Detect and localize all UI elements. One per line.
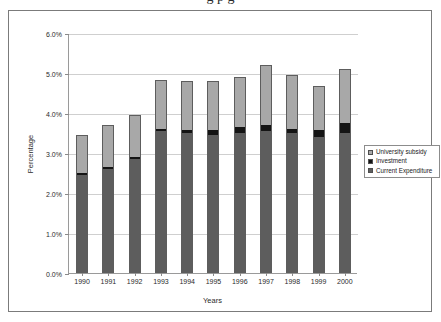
bar-group: 1997	[253, 34, 279, 273]
bar-segment	[77, 136, 87, 173]
stacked-bar	[102, 125, 114, 273]
x-axis-title: Years	[68, 296, 357, 305]
bar-segment	[287, 76, 297, 129]
bar-group: 1996	[227, 34, 253, 273]
bar-segment	[156, 131, 166, 272]
x-axis-tick	[82, 273, 83, 276]
x-axis-tick	[213, 273, 214, 276]
x-axis-label: 1994	[179, 278, 195, 285]
bar-segment	[156, 81, 166, 129]
x-axis-label: 1992	[127, 278, 143, 285]
stacked-bar	[155, 80, 167, 273]
stacked-bar	[207, 81, 219, 273]
legend-swatch-icon	[368, 150, 373, 155]
y-axis-label: 0.0%	[46, 271, 62, 278]
stacked-bar	[286, 75, 298, 273]
x-axis-label: 1999	[311, 278, 327, 285]
legend-label: University subsidy	[376, 149, 427, 155]
chart-legend: University subsidyInvestmentCurrent Expe…	[364, 145, 440, 178]
x-axis-tick	[266, 273, 267, 276]
bar-segment	[261, 66, 271, 125]
legend-item: Investment	[368, 158, 437, 164]
x-axis-label: 2000	[337, 278, 353, 285]
x-axis-label: 1995	[206, 278, 222, 285]
y-axis-label: 1.0%	[46, 231, 62, 238]
y-axis-label: 3.0%	[46, 151, 62, 158]
x-axis-tick	[345, 273, 346, 276]
x-axis-tick	[187, 273, 188, 276]
x-axis-tick	[240, 273, 241, 276]
x-axis-tick	[161, 273, 162, 276]
bar-segment	[208, 135, 218, 272]
stacked-bar	[234, 77, 246, 273]
bar-segment	[261, 131, 271, 272]
x-axis-tick	[135, 273, 136, 276]
legend-swatch-icon	[368, 168, 373, 173]
x-axis-tick	[292, 273, 293, 276]
page-title: g p g	[207, 0, 235, 5]
bar-segment	[340, 70, 350, 123]
x-axis-label: 1998	[285, 278, 301, 285]
y-axis-label: 6.0%	[46, 31, 62, 38]
bar-group: 1999	[305, 34, 331, 273]
bar-group: 1992	[122, 34, 148, 273]
x-axis-tick	[108, 273, 109, 276]
legend-swatch-icon	[368, 159, 373, 164]
bar-group: 1990	[69, 34, 95, 273]
stacked-bar	[129, 115, 141, 273]
x-axis-label: 1993	[153, 278, 169, 285]
bar-group: 1995	[200, 34, 226, 273]
stacked-bar	[313, 86, 325, 273]
bar-segment	[77, 175, 87, 272]
stacked-bar	[76, 135, 88, 273]
bar-segment	[340, 123, 350, 133]
legend-label: Current Expenditure	[376, 168, 432, 174]
legend-item: University subsidy	[368, 149, 437, 155]
cut-off-title-strip: g p g	[0, 0, 441, 9]
x-axis-label: 1991	[101, 278, 117, 285]
y-axis-label: 2.0%	[46, 191, 62, 198]
bar-segment	[235, 133, 245, 272]
bar-segment	[314, 87, 324, 131]
bar-segment	[103, 126, 113, 167]
bar-segment	[182, 133, 192, 272]
bar-group: 2000	[332, 34, 358, 273]
y-axis-label: 5.0%	[46, 71, 62, 78]
bar-segment	[182, 82, 192, 130]
legend-item: Current Expenditure	[368, 168, 437, 174]
x-axis-label: 1990	[74, 278, 90, 285]
stacked-bar	[339, 69, 351, 273]
plot-area: 0.0%1.0%2.0%3.0%4.0%5.0%6.0% 19901991199…	[68, 34, 357, 274]
bar-group: 1994	[174, 34, 200, 273]
bar-segment	[314, 137, 324, 272]
x-axis-label: 1997	[258, 278, 274, 285]
chart-frame: Percentage 0.0%1.0%2.0%3.0%4.0%5.0%6.0% …	[8, 10, 432, 312]
y-axis-label: 4.0%	[46, 111, 62, 118]
bar-group: 1991	[95, 34, 121, 273]
bar-segment	[314, 130, 324, 137]
bar-segment	[208, 82, 218, 130]
bar-segment	[340, 133, 350, 272]
y-axis-title: Percentage	[26, 135, 35, 173]
legend-label: Investment	[376, 158, 407, 164]
bar-group: 1993	[148, 34, 174, 273]
bar-segment	[103, 169, 113, 272]
bar-group: 1998	[279, 34, 305, 273]
x-axis-label: 1996	[232, 278, 248, 285]
bar-segment	[130, 116, 140, 157]
x-axis-tick	[319, 273, 320, 276]
stacked-bar	[260, 65, 272, 273]
bar-segment	[287, 133, 297, 272]
stacked-bar	[181, 81, 193, 273]
bar-segment	[235, 78, 245, 127]
bar-segment	[130, 159, 140, 272]
y-axis-tick	[65, 274, 69, 275]
